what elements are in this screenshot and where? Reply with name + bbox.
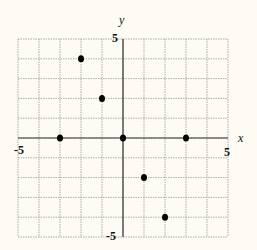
data-point [120, 135, 126, 142]
scatter-chart: y x 5 -5 -5 5 [0, 0, 257, 250]
y-axis-label: y [118, 13, 125, 27]
x-max-tick-label: 5 [224, 145, 230, 159]
x-axis-label: x [237, 131, 244, 145]
data-point [141, 174, 147, 181]
data-point [183, 135, 189, 142]
y-max-tick-label: 5 [112, 31, 118, 45]
data-point [78, 55, 84, 62]
data-point [99, 95, 105, 102]
data-point [57, 135, 63, 142]
y-min-tick-label: -5 [106, 229, 116, 243]
data-point [162, 214, 168, 221]
x-min-tick-label: -5 [14, 143, 24, 157]
